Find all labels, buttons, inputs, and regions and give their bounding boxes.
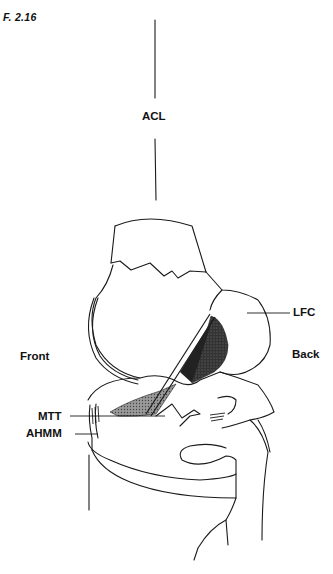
label-back: Back [292, 348, 320, 360]
tibia-plateau-top [88, 442, 236, 480]
femur-shaft-left [111, 226, 115, 263]
fibula [250, 420, 268, 540]
meniscus-posterior [218, 396, 236, 414]
tibial-plateau [88, 372, 274, 428]
mtt-fibers [92, 406, 99, 424]
tibia-lower-curve [194, 520, 226, 560]
lfc-inner [210, 290, 222, 310]
front-cartilage-outer [88, 298, 138, 384]
meniscus-front-rim [89, 405, 92, 450]
medial-condyle [92, 265, 140, 378]
tibia-shaft-right [226, 498, 236, 545]
femur-shaft [115, 219, 206, 272]
acl-axis-lower [155, 139, 156, 200]
knee-diagram [0, 0, 333, 574]
acl-graft [110, 314, 228, 416]
label-acl: ACL [142, 110, 166, 122]
posterior-fibers [210, 413, 225, 421]
posterior-bulge [258, 420, 270, 452]
label-front: Front [20, 350, 49, 362]
tibial-footprint-shading [110, 384, 176, 416]
tibia-plateau-rim [92, 450, 236, 498]
label-mtt: MTT [38, 410, 62, 422]
label-lfc: LFC [293, 306, 315, 318]
tibial-spines [156, 404, 200, 426]
label-ahmm: AHMM [26, 427, 62, 439]
femur-cut-line [111, 261, 206, 278]
